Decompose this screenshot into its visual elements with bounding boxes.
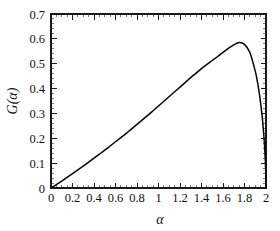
y-tick-label: 0.5 — [29, 57, 45, 71]
chart-svg: 00.10.20.30.40.50.60.7 00.20.40.60.811.2… — [0, 0, 280, 231]
x-tick-label: 2 — [263, 191, 269, 205]
x-tick-label: 1.8 — [237, 191, 253, 205]
x-tick-label: 1.4 — [194, 191, 210, 205]
y-tick-label: 0.6 — [29, 32, 45, 46]
y-tick-label: 0.1 — [29, 157, 45, 171]
x-tick-label: 0.8 — [129, 191, 145, 205]
chart-figure-root: 00.10.20.30.40.50.60.7 00.20.40.60.811.2… — [0, 0, 280, 231]
x-tick-label: 1.6 — [215, 191, 231, 205]
y-axis-title-function: G — [5, 104, 20, 114]
y-tick-label: 0.3 — [29, 107, 45, 121]
y-tick-label: 0.2 — [29, 132, 45, 146]
x-tick-label: 0 — [48, 191, 54, 205]
x-axis-title: α — [156, 212, 164, 227]
x-tick-label: 1 — [155, 191, 161, 205]
x-tick-label: 0.2 — [65, 191, 81, 205]
x-tick-label: 0.6 — [108, 191, 124, 205]
y-tick-label: 0.7 — [29, 8, 45, 22]
y-tick-label: 0.4 — [29, 82, 45, 96]
y-tick-label: 0 — [39, 182, 45, 196]
y-axis-title: G(α) — [5, 87, 21, 114]
x-tick-label: 1.2 — [172, 191, 188, 205]
svg-text:G(α): G(α) — [5, 87, 21, 114]
x-tick-label: 0.4 — [86, 191, 102, 205]
y-axis-title-paren-close: ) — [5, 87, 21, 93]
